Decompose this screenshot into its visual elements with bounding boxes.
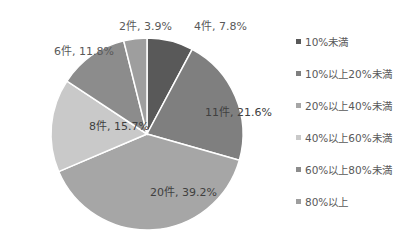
legend-swatch-icon [296, 103, 301, 108]
slice-data-label: 4件, 7.8% [194, 20, 247, 33]
legend-swatch-icon [296, 71, 301, 76]
legend-swatch-icon [296, 39, 301, 44]
legend-item: 20%以上40%未満 [296, 97, 392, 113]
slice-data-label: 2件, 3.9% [119, 20, 172, 33]
slice-data-label: 6件, 11.8% [54, 45, 114, 58]
slice-data-label: 8件, 15.7% [89, 120, 149, 133]
legend-swatch-icon [296, 199, 301, 204]
legend-item: 60%以上80%未満 [296, 161, 392, 177]
legend-item: 40%以上60%未満 [296, 129, 392, 145]
legend-label: 40%以上60%未満 [305, 130, 392, 145]
slice-data-label: 11件, 21.6% [205, 106, 272, 119]
pie-slices [51, 38, 243, 230]
legend-label: 60%以上80%未満 [305, 162, 392, 177]
legend-swatch-icon [296, 167, 301, 172]
legend-item: 10%未満 [296, 33, 392, 49]
legend-item: 80%以上 [296, 193, 392, 209]
legend-swatch-icon [296, 135, 301, 140]
slice-data-label: 20件, 39.2% [150, 186, 217, 199]
legend-item: 10%以上20%未満 [296, 65, 392, 81]
legend-label: 20%以上40%未満 [305, 98, 392, 113]
legend-label: 10%未満 [305, 34, 348, 49]
legend-label: 80%以上 [305, 194, 348, 209]
legend-label: 10%以上20%未満 [305, 66, 392, 81]
chart-legend: 10%未満 10%以上20%未満 20%以上40%未満 40%以上60%未満 6… [296, 33, 392, 225]
